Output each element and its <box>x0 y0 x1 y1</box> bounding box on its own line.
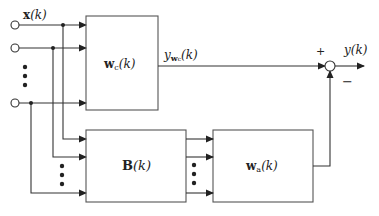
ywc-subvar: w <box>171 53 178 63</box>
input-terminal-m <box>11 99 19 107</box>
ywc-arg: (k) <box>181 48 198 62</box>
input-terminal-2 <box>11 44 19 52</box>
sum-minus-sign: − <box>342 75 353 88</box>
wc-arg: (k) <box>119 57 136 71</box>
B-arg: (k) <box>133 158 151 173</box>
signal-ywc-label: ywc(k) <box>164 49 198 63</box>
input-terminal-1 <box>11 21 19 29</box>
block-wa-label: wa(k) <box>246 160 278 174</box>
wc-var: w <box>104 57 114 71</box>
wa-arg: (k) <box>261 159 278 173</box>
output-arg: (k) <box>351 43 368 57</box>
output-label-y: y(k) <box>344 44 367 56</box>
B-var: B <box>122 158 133 173</box>
input-arg: (k) <box>30 8 47 22</box>
block-B-label: B(k) <box>122 159 151 172</box>
ywc-var: y <box>164 48 171 62</box>
output-var: y <box>344 43 351 57</box>
wa-var: w <box>246 159 256 173</box>
input-label-x: x(k) <box>23 9 47 21</box>
block-diagram-canvas <box>0 0 379 216</box>
sum-plus-sign: + <box>316 46 325 57</box>
summing-junction <box>325 61 335 71</box>
block-wc-label: wc(k) <box>104 58 135 72</box>
